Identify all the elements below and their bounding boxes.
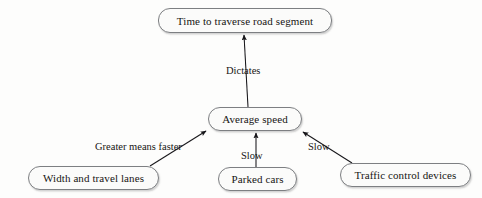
edge-label-dictates: Dictates — [226, 65, 260, 76]
node-traffic-control-devices: Traffic control devices — [340, 163, 471, 187]
node-parked-cars: Parked cars — [218, 167, 297, 191]
concept-map-diagram: Time to traverse road segment Average sp… — [0, 0, 482, 198]
edge-label-slow-traffic-control: Slow — [308, 141, 330, 152]
node-label: Parked cars — [231, 173, 283, 185]
edge-label-greater-means-faster: Greater means faster — [95, 141, 182, 152]
node-label: Traffic control devices — [355, 169, 457, 181]
node-time-to-traverse-road-segment: Time to traverse road segment — [158, 8, 332, 33]
node-average-speed: Average speed — [208, 107, 302, 131]
edge-label-slow-parked-cars: Slow — [241, 150, 263, 161]
node-width-and-travel-lanes: Width and travel lanes — [28, 166, 159, 190]
node-label: Time to traverse road segment — [177, 15, 313, 27]
node-label: Average speed — [222, 113, 288, 125]
node-label: Width and travel lanes — [43, 172, 144, 184]
